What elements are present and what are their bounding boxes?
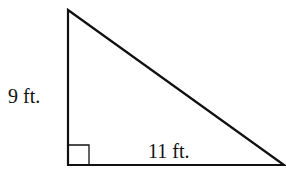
vertical-leg-label: 9 ft. (8, 85, 40, 107)
right-angle-marker (68, 145, 89, 165)
triangle-diagram: 9 ft. 11 ft. (0, 0, 286, 188)
horizontal-leg-label: 11 ft. (148, 140, 189, 162)
